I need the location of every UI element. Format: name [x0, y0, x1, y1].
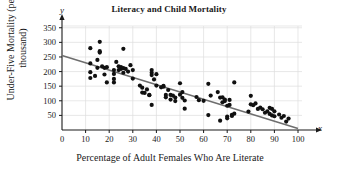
data-point [105, 65, 109, 69]
data-point [140, 86, 144, 90]
x-tick-label: 60 [199, 134, 208, 144]
x-tick-label: 0 [60, 134, 64, 144]
x-tick-label: 80 [247, 134, 256, 144]
y-tick-label: 200 [43, 67, 56, 77]
data-point [88, 76, 92, 80]
data-point [168, 98, 172, 102]
chart-figure: Literacy and Child Mortality Under-Five … [0, 0, 338, 177]
y-tick-label: 100 [43, 96, 56, 106]
x-tick-label: 30 [129, 134, 138, 144]
data-point [246, 109, 250, 113]
data-point [131, 76, 135, 80]
x-tick-label: 20 [105, 134, 114, 144]
x-tick-label: 40 [152, 134, 161, 144]
data-point [131, 68, 135, 72]
x-tick-label: 70 [223, 134, 232, 144]
data-point [150, 73, 154, 77]
data-point [102, 72, 106, 76]
data-point [152, 77, 156, 81]
data-point [232, 80, 236, 84]
data-point [161, 85, 165, 89]
data-point [95, 66, 99, 70]
data-point [282, 114, 286, 118]
data-point [183, 107, 187, 111]
data-point [88, 70, 92, 74]
data-point [232, 112, 236, 116]
data-point [206, 82, 210, 86]
data-point [126, 69, 130, 73]
y-tick-label: 350 [43, 23, 56, 33]
data-point [121, 71, 125, 75]
data-point [150, 103, 154, 107]
data-point [206, 113, 210, 117]
x-tick-label: 100 [292, 134, 305, 144]
data-point [164, 95, 168, 99]
data-point [143, 91, 147, 95]
data-point [183, 98, 187, 102]
data-point [272, 109, 276, 113]
data-point [216, 90, 220, 94]
data-point [98, 40, 102, 44]
data-point [166, 88, 170, 92]
data-point [272, 114, 276, 118]
data-point [128, 63, 132, 67]
data-point [223, 99, 227, 103]
data-point [261, 107, 265, 111]
y-tick-label: 250 [43, 52, 56, 62]
x-axis-arrow [316, 127, 322, 132]
y-tick-label: 300 [43, 37, 56, 47]
tick-labels: 0102030405060708090100501001502002503003… [43, 23, 304, 144]
data-point [173, 99, 177, 103]
y-tick-label: 50 [48, 110, 57, 120]
data-point [178, 81, 182, 85]
x-tick-label: 10 [81, 134, 90, 144]
data-point [154, 84, 158, 88]
data-point [95, 58, 99, 62]
data-points [88, 40, 290, 124]
data-point [145, 87, 149, 91]
data-point [112, 68, 116, 72]
scatter-plot-canvas: 0102030405060708090100501001502002503003… [0, 0, 338, 177]
data-point [253, 101, 257, 105]
data-point [227, 103, 231, 107]
data-point [121, 47, 125, 51]
data-point [154, 72, 158, 76]
data-point [88, 46, 92, 50]
data-point [209, 93, 213, 97]
data-point [112, 72, 116, 76]
data-point [98, 49, 102, 53]
data-point [202, 99, 206, 103]
data-point [197, 98, 201, 102]
data-point [249, 94, 253, 98]
data-point [93, 74, 97, 78]
data-point [225, 116, 229, 120]
x-tick-label: 50 [176, 134, 185, 144]
data-point [286, 117, 290, 121]
data-point [114, 60, 118, 64]
data-point [105, 80, 109, 84]
data-point [180, 90, 184, 94]
data-point [218, 119, 222, 123]
y-tick-label: 150 [43, 81, 56, 91]
data-point [88, 61, 92, 65]
y-axis-arrow [59, 14, 64, 20]
data-point [227, 98, 231, 102]
data-point [112, 80, 116, 84]
x-tick-label: 90 [270, 134, 279, 144]
data-point [147, 93, 151, 97]
